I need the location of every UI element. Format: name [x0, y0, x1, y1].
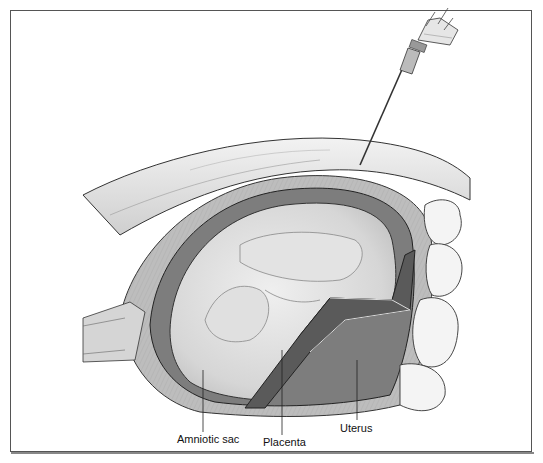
label-placenta: Placenta [263, 436, 306, 448]
amniocentesis-illustration [0, 0, 543, 463]
label-amniotic-sac: Amniotic sac [177, 433, 239, 445]
label-uterus: Uterus [340, 422, 372, 434]
